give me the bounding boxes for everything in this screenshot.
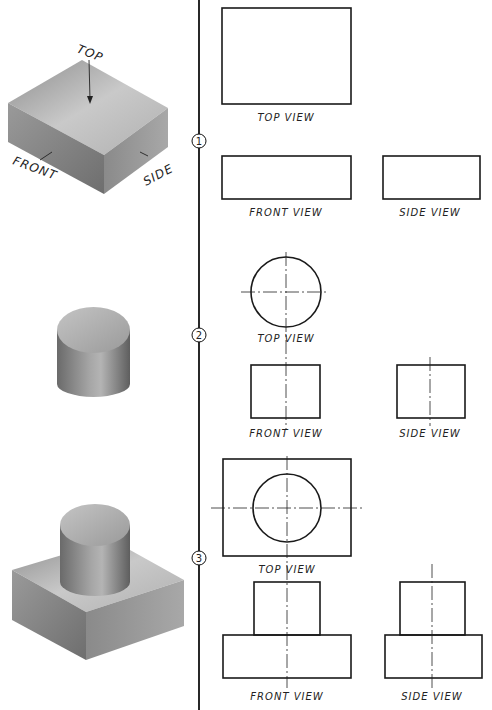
side-view-label-2: SIDE VIEW	[399, 428, 461, 439]
side-view-3	[385, 582, 482, 678]
top-view-1	[222, 8, 351, 104]
label-side: SIDE	[141, 161, 176, 188]
example-number-3: 3	[192, 551, 206, 565]
top-view-label-1: TOP VIEW	[257, 112, 314, 123]
front-view-label-2: FRONT VIEW	[249, 428, 322, 439]
pictorial-cylinder	[57, 307, 130, 397]
front-view-label-1: FRONT VIEW	[249, 207, 322, 218]
side-view-2	[397, 365, 465, 418]
svg-text:2: 2	[196, 330, 202, 341]
front-view-1	[222, 156, 351, 199]
label-top: TOP	[75, 42, 105, 65]
example-number-1: 1	[192, 134, 206, 148]
svg-text:1: 1	[196, 136, 202, 147]
orthographic-diagram: TOP FRONT SIDE 1 TOP VIEW FRONT VIEW SID…	[0, 0, 492, 710]
front-view-label-3: FRONT VIEW	[250, 691, 323, 702]
svg-text:3: 3	[196, 553, 202, 564]
side-view-1	[383, 156, 480, 199]
side-view-label-1: SIDE VIEW	[399, 207, 461, 218]
front-view-2	[251, 365, 320, 418]
pictorial-cylinder-on-block	[12, 504, 184, 660]
example-number-2: 2	[192, 328, 206, 342]
top-view-label-2: TOP VIEW	[257, 333, 314, 344]
side-view-label-3: SIDE VIEW	[401, 691, 463, 702]
top-view-label-3: TOP VIEW	[258, 564, 315, 575]
